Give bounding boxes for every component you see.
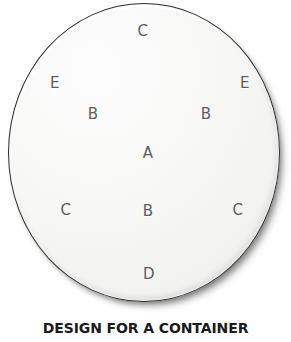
container-marker-a: A	[143, 146, 154, 161]
container-marker-e: E	[240, 76, 250, 91]
container-marker-e: E	[50, 76, 60, 91]
container-marker-b: B	[143, 204, 154, 219]
figure-root: CEEBBACBCD DESIGN FOR A CONTAINER	[0, 0, 291, 342]
container-marker-b: B	[88, 107, 99, 122]
container-marker-c: C	[138, 24, 149, 39]
container-marker-d: D	[143, 267, 155, 282]
figure-caption: DESIGN FOR A CONTAINER	[0, 320, 291, 336]
container-marker-c: C	[233, 203, 244, 218]
container-marker-c: C	[61, 203, 72, 218]
container-marker-b: B	[201, 107, 212, 122]
